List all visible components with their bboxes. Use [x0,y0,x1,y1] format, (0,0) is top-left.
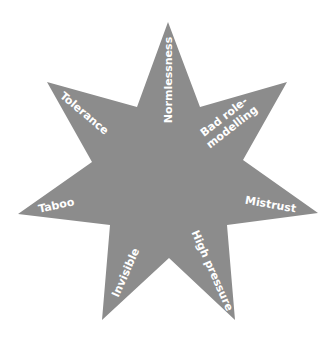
label-normlessness: Normlessness [162,36,175,123]
star-diagram: Normlessness Bad role- modelling Mistrus… [0,0,332,338]
